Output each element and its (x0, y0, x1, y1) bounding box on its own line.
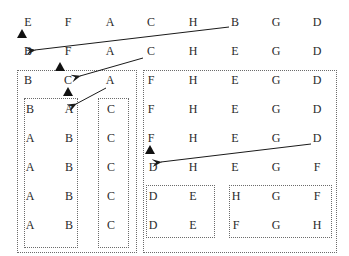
triangle-marker-icon (63, 87, 73, 96)
arrow-d-to-d (161, 144, 311, 162)
arrow-b-to-b (35, 27, 229, 50)
triangle-marker-icon (17, 29, 27, 38)
arrow-a-to-a (76, 88, 106, 104)
arrow-c-to-c (80, 58, 143, 76)
arrows-layer (0, 0, 349, 256)
triangle-marker-icon (55, 62, 65, 71)
triangle-marker-icon (145, 145, 155, 154)
diagram-canvas: E F A C H B G D B F A C H E G D B C A B … (0, 0, 349, 256)
